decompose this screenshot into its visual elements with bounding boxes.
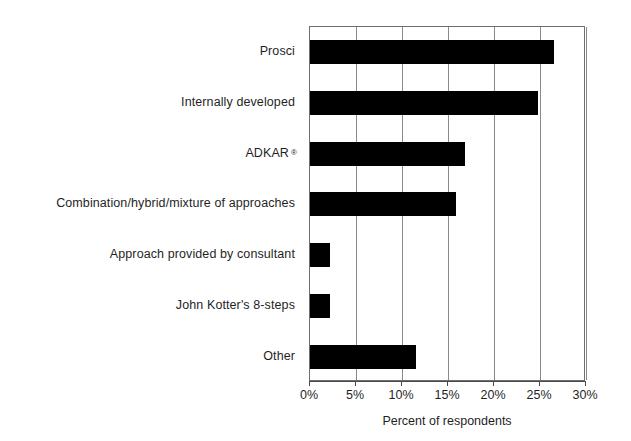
- bar-slot: [310, 331, 586, 382]
- x-tick-25%: [539, 381, 540, 386]
- category-label-adkar: ADKAR®: [0, 127, 303, 178]
- x-tick-label-10%: 10%: [388, 388, 413, 402]
- bar-other: [310, 345, 416, 369]
- x-tick-15%: [447, 381, 448, 386]
- category-axis-labels: Prosci Internally developed ADKAR® Combi…: [0, 26, 303, 381]
- x-tick-5%: [355, 381, 356, 386]
- category-label-text: John Kotter's 8-steps: [176, 298, 295, 312]
- bar-slot: [310, 27, 586, 78]
- gridline-30%: [586, 27, 587, 380]
- bar-approach-provided-by-consultant: [310, 243, 330, 267]
- x-tick-0%: [309, 381, 310, 386]
- x-tick-label-15%: 15%: [434, 388, 459, 402]
- bar-slot: [310, 179, 586, 230]
- category-label-consultant: Approach provided by consultant: [0, 229, 303, 280]
- bar-slot: [310, 78, 586, 129]
- category-label-text: Approach provided by consultant: [110, 247, 295, 261]
- category-label-prosci: Prosci: [0, 26, 303, 77]
- bar-combination-hybrid-mixture-of-approaches: [310, 192, 456, 216]
- category-label-text: Prosci: [260, 44, 295, 58]
- bar-prosci: [310, 40, 554, 64]
- category-label-text: Other: [263, 349, 295, 363]
- bar-chart: Prosci Internally developed ADKAR® Combi…: [0, 0, 631, 441]
- x-tick-10%: [401, 381, 402, 386]
- x-tick-label-25%: 25%: [526, 388, 551, 402]
- category-label-john-kotter: John Kotter's 8-steps: [0, 280, 303, 331]
- x-axis-title: Percent of respondents: [309, 414, 585, 428]
- x-tick-20%: [493, 381, 494, 386]
- bar-slot: [310, 230, 586, 281]
- x-tick-label-20%: 20%: [480, 388, 505, 402]
- x-tick-label-5%: 5%: [346, 388, 364, 402]
- bars-layer: [310, 27, 584, 380]
- x-tick-30%: [585, 381, 586, 386]
- registered-trademark-icon: ®: [291, 148, 297, 157]
- category-label-internally-developed: Internally developed: [0, 77, 303, 128]
- category-label-other: Other: [0, 330, 303, 381]
- bar-slot: [310, 281, 586, 332]
- category-label-text: Internally developed: [181, 95, 295, 109]
- bar-slot: [310, 128, 586, 179]
- bar-adkar: [310, 142, 465, 166]
- category-label-text: Combination/hybrid/mixture of approaches: [56, 196, 295, 210]
- category-label-text: ADKAR: [245, 146, 289, 160]
- x-tick-label-30%: 30%: [572, 388, 597, 402]
- bar-internally-developed: [310, 91, 538, 115]
- category-label-combination: Combination/hybrid/mixture of approaches: [0, 178, 303, 229]
- x-tick-label-0%: 0%: [300, 388, 318, 402]
- plot-area: [309, 26, 585, 381]
- bar-john-kotter-s-8-steps: [310, 294, 330, 318]
